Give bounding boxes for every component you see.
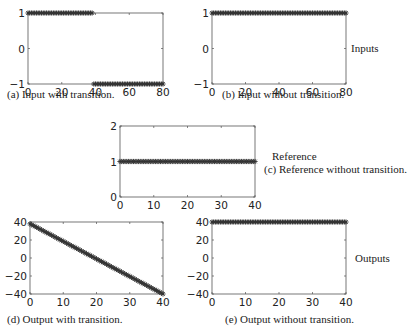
svg-text:0: 0 [27,296,34,308]
svg-text:0: 0 [110,191,117,203]
svg-text:10: 10 [239,296,252,308]
label-reference: Reference [272,150,317,162]
label-outputs: Outputs [355,252,390,264]
svg-text:−1: −1 [194,78,209,90]
chart-a: 020406080−101 [10,7,170,98]
label-inputs: Inputs [351,42,379,54]
svg-text:60: 60 [123,86,136,98]
svg-text:30: 30 [306,296,319,308]
svg-text:20: 20 [90,296,103,308]
chart-e: 010203040−40−2002040 [187,216,353,308]
svg-text:40: 40 [14,216,27,228]
svg-text:80: 80 [156,86,169,98]
chart-c: 010203040012 [110,120,261,211]
chart-d: 010203040−40−2002040 [5,216,170,308]
svg-text:0: 0 [20,252,27,264]
svg-text:1: 1 [18,7,25,19]
caption-a: (a) Input with transition. [7,88,115,100]
svg-text:0: 0 [209,86,216,98]
svg-text:−20: −20 [5,270,27,282]
svg-text:0: 0 [209,296,216,308]
svg-text:0: 0 [202,43,209,55]
chart-b: 020406080−101 [194,7,353,98]
svg-text:−20: −20 [187,270,209,282]
svg-text:40: 40 [196,216,209,228]
svg-text:0: 0 [202,252,209,264]
svg-text:20: 20 [181,199,194,211]
svg-text:2: 2 [110,120,117,132]
svg-text:40: 40 [248,199,261,211]
svg-text:30: 30 [215,199,228,211]
svg-text:−40: −40 [187,288,209,300]
caption-b: (b) Input without transition. [222,88,344,100]
svg-text:10: 10 [147,199,160,211]
svg-text:40: 40 [339,296,352,308]
caption-c: (c) Reference without transition. [264,163,407,175]
caption-d: (d) Output with transition. [7,313,123,325]
svg-text:1: 1 [202,7,209,19]
caption-e: (e) Output without transition. [225,313,354,325]
svg-text:20: 20 [196,234,209,246]
svg-text:10: 10 [57,296,70,308]
svg-text:30: 30 [123,296,136,308]
svg-text:1: 1 [110,156,117,168]
svg-text:0: 0 [18,43,25,55]
svg-text:40: 40 [156,296,169,308]
svg-text:0: 0 [117,199,124,211]
svg-text:20: 20 [14,234,27,246]
svg-text:20: 20 [272,296,285,308]
svg-text:−40: −40 [5,288,27,300]
